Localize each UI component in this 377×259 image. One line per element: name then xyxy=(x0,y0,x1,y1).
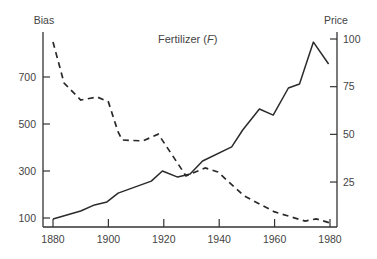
price-series-line xyxy=(53,42,329,219)
right-tick-label: 50 xyxy=(343,128,355,140)
left-axis-ticks: 100300500700 xyxy=(18,71,50,224)
x-tick-label: 1900 xyxy=(97,233,121,245)
left-tick-label: 500 xyxy=(18,118,36,130)
bias-series-line xyxy=(53,42,330,223)
line-chart: Bias Price Fertilizer (F) 100300500700 2… xyxy=(0,0,377,259)
x-tick-label: 1920 xyxy=(152,233,176,245)
axes xyxy=(43,32,337,227)
left-tick-label: 700 xyxy=(18,71,36,83)
right-axis-ticks: 255075100 xyxy=(330,33,361,188)
right-tick-label: 100 xyxy=(343,33,361,45)
x-tick-label: 1980 xyxy=(318,233,342,245)
right-axis-label: Price xyxy=(324,14,348,26)
left-axis-label: Bias xyxy=(34,14,54,26)
left-tick-label: 100 xyxy=(18,212,36,224)
right-tick-label: 75 xyxy=(343,80,355,92)
x-tick-label: 1880 xyxy=(41,233,65,245)
x-tick-label: 1940 xyxy=(208,233,232,245)
chart-title: Fertilizer (F) xyxy=(158,33,217,45)
chart-title-end: ) xyxy=(214,33,218,45)
x-axis-ticks: 188019001920194019601980 xyxy=(41,219,342,245)
right-tick-label: 25 xyxy=(343,176,355,188)
chart-title-main: Fertilizer ( xyxy=(158,33,207,45)
x-tick-label: 1960 xyxy=(263,233,287,245)
left-tick-label: 300 xyxy=(18,165,36,177)
